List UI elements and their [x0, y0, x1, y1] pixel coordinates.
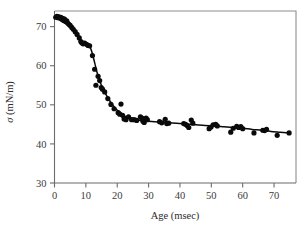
data-point [287, 130, 292, 135]
data-point [105, 96, 110, 101]
data-point [215, 123, 220, 128]
scatter-plot: 010203040506070 3040506070 Age (msec) σ … [0, 0, 307, 228]
y-tick-label: 40 [36, 139, 47, 150]
data-point [240, 126, 245, 131]
data-point [92, 67, 97, 72]
y-tick-label: 60 [36, 60, 47, 71]
plot-frame [55, 11, 297, 183]
data-point [118, 101, 123, 106]
fit-curve [55, 17, 289, 133]
plot-axes [55, 11, 297, 183]
x-tick-label: 20 [112, 190, 123, 201]
y-axis-title: σ (mN/m) [4, 81, 16, 123]
y-axis-units: (mN/m) [4, 81, 16, 118]
svg-text:σ (mN/m): σ (mN/m) [4, 81, 16, 123]
y-axis-ticks: 3040506070 [36, 21, 55, 188]
y-tick-label: 70 [36, 21, 47, 32]
data-point [87, 43, 92, 48]
data-point [251, 130, 256, 135]
x-tick-label: 40 [175, 190, 186, 201]
y-tick-label: 30 [36, 178, 47, 189]
data-point [111, 106, 116, 111]
data-point [97, 78, 102, 83]
data-points [53, 14, 292, 138]
data-point [275, 133, 280, 138]
data-point [166, 121, 171, 126]
data-point [145, 117, 150, 122]
x-tick-label: 50 [206, 190, 217, 201]
data-point [102, 89, 107, 94]
x-tick-label: 10 [81, 190, 92, 201]
data-point [108, 102, 113, 107]
data-point [93, 83, 98, 88]
data-point [190, 121, 195, 126]
x-tick-label: 70 [269, 190, 280, 201]
x-tick-label: 30 [143, 190, 154, 201]
data-point [90, 53, 95, 58]
x-axis-title: Age (msec) [151, 210, 200, 222]
x-tick-label: 60 [237, 190, 248, 201]
x-axis-ticks: 010203040506070 [52, 183, 279, 201]
y-tick-label: 50 [36, 99, 47, 110]
data-point [186, 125, 191, 130]
figure-container: 010203040506070 3040506070 Age (msec) σ … [0, 0, 307, 228]
data-point [264, 127, 269, 132]
x-tick-label: 0 [52, 190, 57, 201]
